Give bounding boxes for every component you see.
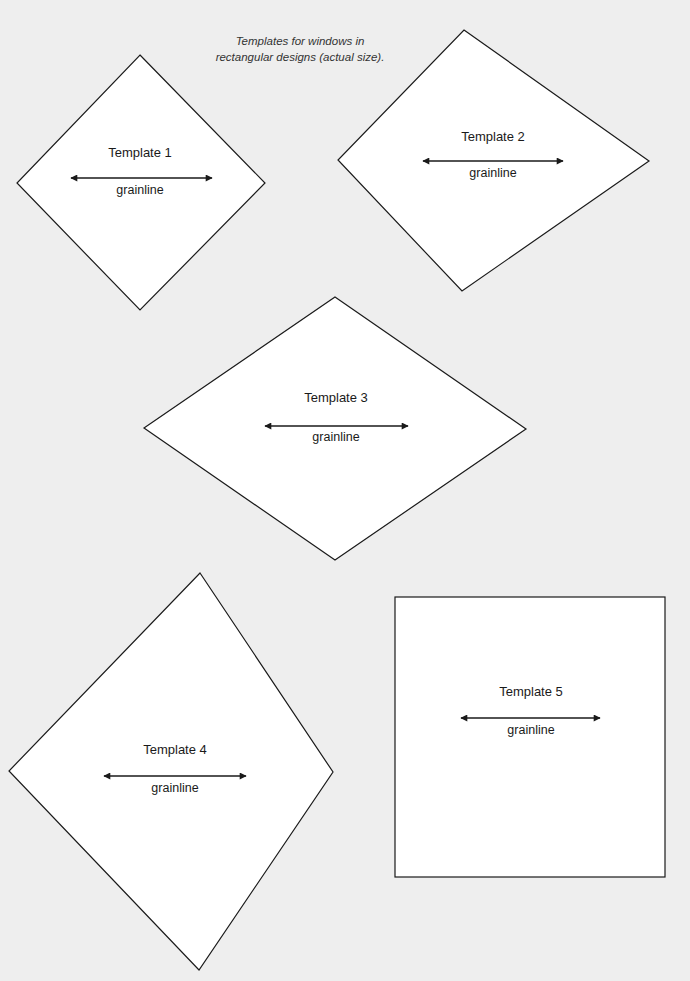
template-3-title: Template 3	[266, 390, 406, 405]
template-4-grainline-label: grainline	[105, 781, 245, 795]
template-2-shape	[338, 30, 649, 291]
template-1-title: Template 1	[70, 145, 210, 160]
template-5-title: Template 5	[461, 684, 601, 699]
template-1-grainline-label: grainline	[70, 183, 210, 197]
template-3-grainline-label: grainline	[266, 430, 406, 444]
template-2-grainline-label: grainline	[423, 166, 563, 180]
template-3-shape	[144, 297, 526, 560]
template-5-grainline-label: grainline	[461, 723, 601, 737]
template-5-shape	[395, 597, 665, 877]
template-4-shape	[9, 573, 333, 970]
template-4-title: Template 4	[105, 742, 245, 757]
template-2-title: Template 2	[423, 129, 563, 144]
